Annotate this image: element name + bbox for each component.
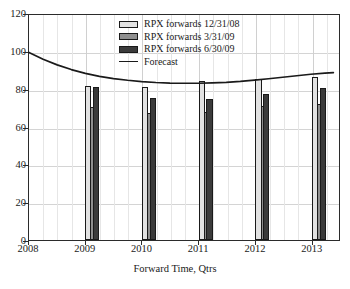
legend-line-icon xyxy=(119,61,138,62)
legend-swatch-icon xyxy=(119,46,138,53)
x-tick-label: 2009 xyxy=(74,244,95,255)
x-axis-title: Forward Time, Qtrs xyxy=(0,263,350,274)
legend-label: RPX forwards 6/30/09 xyxy=(144,44,235,54)
legend-label: Forecast xyxy=(144,57,178,67)
legend-label: RPX forwards 12/31/08 xyxy=(144,19,240,29)
y-tick-mark xyxy=(23,203,28,204)
y-tick-mark xyxy=(23,52,28,53)
y-tick-mark xyxy=(23,14,28,15)
legend-item: RPX forwards 6/30/09 xyxy=(119,43,240,56)
x-tick-mark xyxy=(255,241,256,245)
legend-item: RPX forwards 3/31/09 xyxy=(119,31,240,44)
chart-legend: RPX forwards 12/31/08RPX forwards 3/31/0… xyxy=(117,16,242,70)
legend-item: RPX forwards 12/31/08 xyxy=(119,18,240,31)
x-tick-mark xyxy=(312,241,313,245)
legend-swatch-icon xyxy=(119,21,138,28)
legend-swatch-icon xyxy=(119,33,138,40)
x-tick-label: 2012 xyxy=(244,244,265,255)
y-tick-mark xyxy=(23,165,28,166)
legend-item: Forecast xyxy=(119,56,240,69)
x-tick-mark xyxy=(28,241,29,245)
x-tick-mark xyxy=(141,241,142,245)
x-tick-label: 2010 xyxy=(131,244,152,255)
x-tick-label: 2008 xyxy=(18,244,39,255)
x-tick-mark xyxy=(198,241,199,245)
y-tick-mark xyxy=(23,90,28,91)
legend-label: RPX forwards 3/31/09 xyxy=(144,32,235,42)
x-tick-mark xyxy=(85,241,86,245)
chart-page: 020406080100120200820092010201120122013 … xyxy=(0,0,350,289)
x-tick-label: 2011 xyxy=(188,244,209,255)
x-tick-label: 2013 xyxy=(301,244,322,255)
y-tick-mark xyxy=(23,128,28,129)
